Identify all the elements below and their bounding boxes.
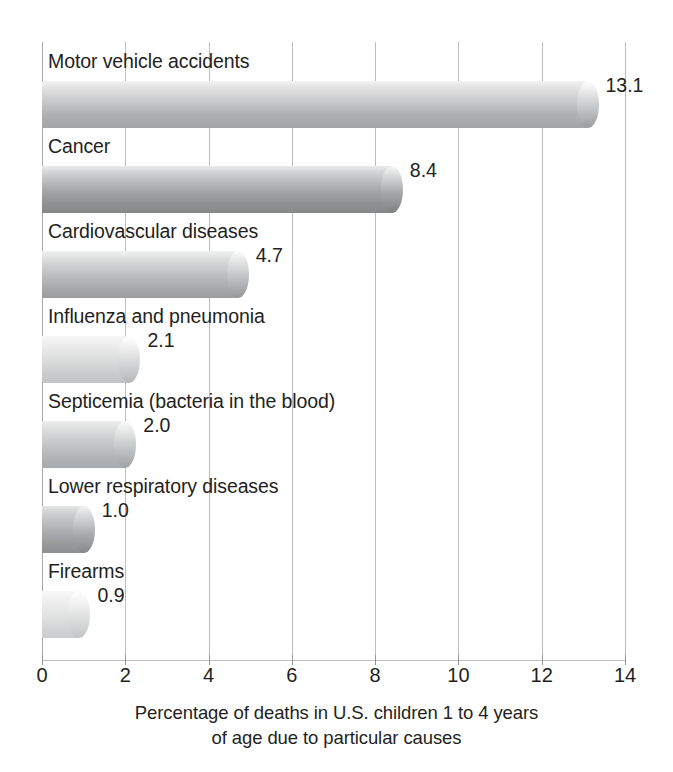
plot-area: Motor vehicle accidents13.1Cancer8.4Card…	[42, 42, 625, 660]
bar-end-cap	[114, 421, 136, 468]
bar-row: Septicemia (bacteria in the blood)2.0	[42, 382, 673, 467]
tick-label-12: 12	[531, 664, 553, 687]
bar-category-label: Motor vehicle accidents	[48, 42, 249, 80]
bar	[42, 421, 125, 468]
bar-value-label: 1.0	[102, 498, 129, 521]
bar	[42, 336, 129, 383]
bar-value-label: 8.4	[410, 158, 437, 181]
tick-label-2: 2	[120, 664, 131, 687]
tick-label-4: 4	[203, 664, 214, 687]
bar-value-label: 2.1	[147, 328, 174, 351]
bar-row: Lower respiratory diseases1.0	[42, 467, 673, 552]
bar	[42, 251, 238, 298]
bar-body	[42, 81, 588, 128]
bar-end-cap	[73, 506, 95, 553]
x-axis-line	[42, 660, 626, 661]
bar	[42, 81, 588, 128]
bar-category-label: Lower respiratory diseases	[48, 467, 278, 505]
tick-label-6: 6	[286, 664, 297, 687]
bar-body	[42, 166, 392, 213]
bar-category-label: Septicemia (bacteria in the blood)	[48, 382, 335, 420]
x-axis-title-line2: of age due to particular causes	[0, 725, 673, 750]
bar-body	[42, 251, 238, 298]
tick-label-14: 14	[614, 664, 636, 687]
bar-row: Motor vehicle accidents13.1	[42, 42, 673, 127]
bar-row: Influenza and pneumonia2.1	[42, 297, 673, 382]
bar-row: Cancer8.4	[42, 127, 673, 212]
tick-label-0: 0	[36, 664, 47, 687]
bar	[42, 166, 392, 213]
bar-body	[42, 336, 129, 383]
bar-end-cap	[68, 591, 90, 638]
bar-value-label: 13.1	[606, 73, 644, 96]
bar-end-cap	[577, 81, 599, 128]
bar-row: Cardiovascular diseases4.7	[42, 212, 673, 297]
bar-end-cap	[381, 166, 403, 213]
bar	[42, 591, 79, 638]
tick-label-10: 10	[447, 664, 469, 687]
bar-value-label: 0.9	[97, 583, 124, 606]
bar-value-label: 4.7	[256, 243, 283, 266]
bar-end-cap	[118, 336, 140, 383]
bar-chart: Motor vehicle accidents13.1Cancer8.4Card…	[0, 0, 673, 772]
bar-body	[42, 421, 125, 468]
x-axis-title: Percentage of deaths in U.S. children 1 …	[0, 700, 673, 750]
x-axis-title-line1: Percentage of deaths in U.S. children 1 …	[0, 700, 673, 725]
bar-row: Firearms0.9	[42, 552, 673, 637]
tick-label-8: 8	[370, 664, 381, 687]
bar-category-label: Cardiovascular diseases	[48, 212, 258, 250]
bar-category-label: Cancer	[48, 127, 110, 165]
bar-value-label: 2.0	[143, 413, 170, 436]
bar-end-cap	[227, 251, 249, 298]
bar	[42, 506, 84, 553]
